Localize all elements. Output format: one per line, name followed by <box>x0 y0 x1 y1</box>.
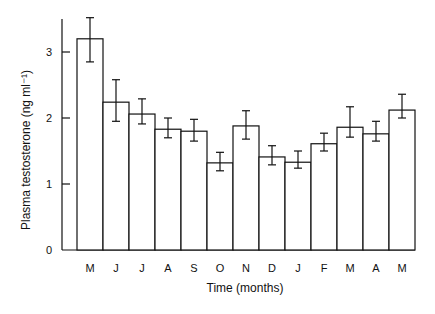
bar <box>233 126 259 250</box>
bar <box>259 157 285 250</box>
bar <box>363 134 389 250</box>
x-axis-label: Time (months) <box>207 281 284 295</box>
y-tick-label: 0 <box>46 244 52 256</box>
x-tick-label: A <box>164 262 172 274</box>
x-tick-label: F <box>321 262 328 274</box>
x-tick-label: D <box>268 262 276 274</box>
bar <box>285 162 311 250</box>
bar <box>77 39 103 250</box>
x-tick-label: M <box>85 262 94 274</box>
bar-chart: MJJASONDJFMAM 0123 Time (months) Plasma … <box>0 0 435 314</box>
x-tick-label: O <box>216 262 225 274</box>
bar <box>207 163 233 250</box>
y-tick-labels: 0123 <box>46 46 52 256</box>
x-tick-label: J <box>139 262 145 274</box>
bar <box>129 114 155 250</box>
y-tick-label: 2 <box>46 112 52 124</box>
bar <box>389 110 415 250</box>
x-tick-labels: MJJASONDJFMAM <box>85 262 406 274</box>
bar <box>103 102 129 250</box>
bars <box>77 39 415 250</box>
x-tick-label: S <box>190 262 197 274</box>
x-tick-label: J <box>113 262 119 274</box>
x-tick-label: M <box>397 262 406 274</box>
bar <box>337 127 363 250</box>
x-tick-label: M <box>345 262 354 274</box>
bar <box>155 129 181 250</box>
y-tick-label: 3 <box>46 46 52 58</box>
bar <box>311 144 337 250</box>
x-tick-label: N <box>242 262 250 274</box>
bar <box>181 131 207 250</box>
y-tick-label: 1 <box>46 178 52 190</box>
x-tick-label: J <box>295 262 301 274</box>
x-tick-label: A <box>372 262 380 274</box>
y-axis-label: Plasma testosterone (ng ml⁻¹) <box>19 70 33 230</box>
